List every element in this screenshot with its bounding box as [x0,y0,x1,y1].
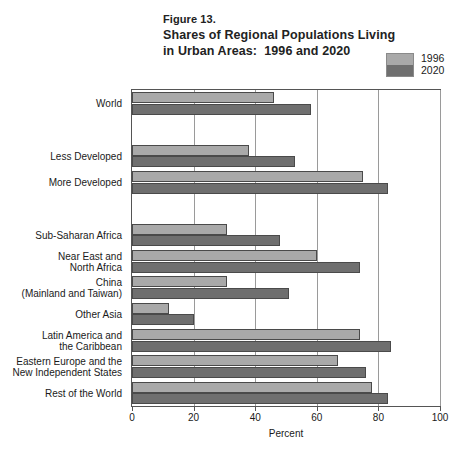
bar-2020 [132,341,391,352]
bar-2020 [132,367,366,378]
bar-1996 [132,382,372,393]
bar-rows [132,90,440,406]
category-label: Latin America and the Caribbean [42,330,122,353]
bar-group [132,301,440,327]
bar-2020 [132,314,194,325]
bar-2020 [132,288,289,299]
category-label: Sub-Saharan Africa [35,230,122,242]
legend-swatch-1996 [387,54,413,65]
bar-group [132,169,440,195]
bar-group [132,222,440,248]
bar-group [132,143,440,169]
x-tick-mark-20 [194,407,195,411]
category-label: More Developed [49,177,122,189]
category-label: Eastern Europe and the New Independent S… [12,356,122,379]
legend-swatch-stack [386,53,414,77]
bar-group [132,327,440,353]
x-tick-label-80: 80 [373,412,384,424]
legend-label-2020: 2020 [421,64,444,76]
x-tick-label-0: 0 [129,412,135,424]
bar-1996 [132,224,227,235]
chart-legend: 19962020 [386,52,444,77]
x-axis-title: Percent [131,428,441,439]
legend-swatch-2020 [387,65,413,76]
bar-1996 [132,92,274,103]
x-tick-mark-40 [255,407,256,411]
bar-1996 [132,145,249,156]
bar-group [132,90,440,116]
figure-13-chart: Figure 13. Shares of Regional Population… [0,0,468,451]
bar-2020 [132,262,360,273]
plot-area [131,89,441,407]
legend-label-1996: 1996 [421,52,444,64]
bar-group [132,353,440,379]
x-tick-label-40: 40 [250,412,261,424]
bar-group [132,274,440,300]
figure-title-line-1: Shares of Regional Populations Living [163,27,453,43]
bar-2020 [132,104,311,115]
category-label: World [96,98,122,110]
x-tick-label-60: 60 [311,412,322,424]
x-tick-label-100: 100 [432,412,449,424]
gridline-100 [440,90,441,406]
category-label: China (Mainland and Taiwan) [22,277,122,300]
bar-1996 [132,303,169,314]
bar-1996 [132,250,317,261]
category-axis-labels: WorldLess DevelopedMore DevelopedSub-Sah… [0,89,126,407]
bar-1996 [132,329,360,340]
x-tick-mark-100 [440,407,441,411]
bar-1996 [132,355,338,366]
x-tick-label-20: 20 [188,412,199,424]
bar-1996 [132,171,363,182]
category-label: Other Asia [75,309,122,321]
bar-2020 [132,156,295,167]
bar-2020 [132,235,280,246]
x-tick-mark-60 [317,407,318,411]
x-tick-mark-0 [132,407,133,411]
bar-group [132,380,440,406]
figure-number: Figure 13. [163,12,453,27]
legend-label-stack: 19962020 [421,52,444,76]
bar-1996 [132,276,227,287]
bar-2020 [132,183,388,194]
bar-2020 [132,393,388,404]
x-axis: 020406080100 [131,407,441,427]
category-label: Less Developed [50,151,122,163]
category-label: Near East and North Africa [58,251,122,274]
bar-group [132,248,440,274]
x-tick-mark-80 [378,407,379,411]
category-label: Rest of the World [45,388,122,400]
